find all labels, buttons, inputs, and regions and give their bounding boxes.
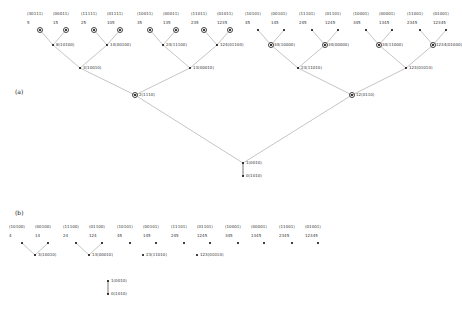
leaf-node-3 xyxy=(119,29,121,31)
leaf-node-14 xyxy=(419,29,421,31)
leaf-num-13: 1345 xyxy=(379,21,389,26)
leaf-code-6: (11011) xyxy=(191,12,207,17)
leaf-node-11 xyxy=(337,29,339,31)
level4-node-0 xyxy=(134,94,136,96)
level2-node-4 xyxy=(270,44,272,46)
leaf-node-0 xyxy=(39,29,41,31)
level2-node-6 xyxy=(378,44,380,46)
level3-node-3 xyxy=(405,67,407,69)
b-leaf-num-0: 4 xyxy=(9,234,12,239)
leaf-num-11: 1245 xyxy=(325,21,335,26)
leaf-num-3: 105 xyxy=(107,21,115,26)
b-level2-label-3: 123(01010) xyxy=(200,253,223,258)
leaf-num-10: 245 xyxy=(299,21,307,26)
leaf-code-11: (01101) xyxy=(325,12,341,17)
level3-node-2 xyxy=(297,67,299,69)
b-leaf-code-4: (10101) xyxy=(117,225,133,230)
leaf-num-5: 135 xyxy=(163,21,171,26)
leaf-num-7: 1235 xyxy=(217,21,227,26)
level3-node-1 xyxy=(189,67,191,69)
level2-node-0 xyxy=(52,44,54,46)
b-leaf-node-10 xyxy=(291,242,293,244)
b-level2-node-0 xyxy=(34,254,36,256)
b-level2-label-2: 23(11010) xyxy=(146,253,167,258)
leaf-node-10 xyxy=(311,29,313,31)
level2-node-3 xyxy=(216,44,218,46)
leaf-num-15: 12345 xyxy=(433,21,446,26)
leaf-code-0: (30111) xyxy=(27,12,43,17)
b-leaf-node-4 xyxy=(129,242,131,244)
level2-label-2: 24(11100) xyxy=(166,43,187,48)
leaf-num-1: 15 xyxy=(53,21,58,26)
b-leaf-num-4: 45 xyxy=(117,234,122,239)
leaf-node-12 xyxy=(365,29,367,31)
leaf-code-8: (10101) xyxy=(245,12,261,17)
leaf-code-3: (01111) xyxy=(107,12,123,17)
level4-label-0: 2(1110) xyxy=(139,93,155,98)
tail-label: 0(1010) xyxy=(246,174,262,179)
b-leaf-code-8: (10001) xyxy=(225,225,241,230)
b-leaf-code-10: (11001) xyxy=(279,225,295,230)
level2-node-7 xyxy=(432,44,434,46)
leaf-node-2 xyxy=(93,29,95,31)
b-tail-node xyxy=(107,293,109,295)
b-leaf-num-2: 24 xyxy=(63,234,68,239)
level2-label-5: 34(00000) xyxy=(328,43,349,48)
b-leaf-num-10: 2345 xyxy=(279,234,289,239)
b-leaf-code-0: (10100) xyxy=(9,225,25,230)
leaf-code-15: (01001) xyxy=(433,12,449,17)
b-leaf-node-8 xyxy=(237,242,239,244)
b-leaf-node-7 xyxy=(209,242,211,244)
level4-label-1: 12(0110) xyxy=(356,93,374,98)
b-leaf-num-8: 345 xyxy=(225,234,233,239)
level2-node-5 xyxy=(324,44,326,46)
leaf-code-10: (11101) xyxy=(299,12,315,17)
leaf-num-0: 5 xyxy=(27,21,30,26)
leaf-code-7: (01011) xyxy=(217,12,233,17)
level3-label-2: 23(11010) xyxy=(301,66,322,71)
level2-label-1: 14(00100) xyxy=(110,43,131,48)
level2-label-7: 1234(01000) xyxy=(436,43,462,48)
b-leaf-code-1: (00100) xyxy=(35,225,51,230)
leaf-node-6 xyxy=(203,29,205,31)
leaf-code-14: (11001) xyxy=(407,12,423,17)
level3-label-0: 3(10010) xyxy=(83,66,101,71)
leaf-code-1: (00011) xyxy=(53,12,69,17)
b-leaf-num-9: 1345 xyxy=(251,234,261,239)
leaf-num-8: 45 xyxy=(245,21,250,26)
b-level2-node-3 xyxy=(196,254,198,256)
b-leaf-node-3 xyxy=(101,242,103,244)
leaf-num-6: 235 xyxy=(191,21,199,26)
leaf-code-13: (00001) xyxy=(379,12,395,17)
b-leaf-code-7: (01101) xyxy=(197,225,213,230)
root-label: 1(0010) xyxy=(246,161,262,166)
b-leaf-code-5: (00101) xyxy=(143,225,159,230)
b-leaf-code-11: (01001) xyxy=(305,225,321,230)
b-leaf-code-6: (11101) xyxy=(171,225,187,230)
b-leaf-num-5: 145 xyxy=(143,234,151,239)
root-node xyxy=(242,162,244,164)
leaf-node-8 xyxy=(257,29,259,31)
b-level2-label-0: 3(10010) xyxy=(38,253,56,258)
b-leaf-num-1: 14 xyxy=(35,234,40,239)
leaf-num-2: 25 xyxy=(81,21,86,26)
tail-node xyxy=(242,175,244,177)
b-root-node xyxy=(107,280,109,282)
leaf-node-4 xyxy=(149,29,151,31)
leaf-num-9: 145 xyxy=(271,21,279,26)
b-leaf-node-5 xyxy=(155,242,157,244)
leaf-code-4: (10011) xyxy=(137,12,153,17)
b-level2-label-1: 13(00010) xyxy=(92,253,113,258)
leaf-num-14: 2345 xyxy=(407,21,417,26)
level2-label-0: 8(10100) xyxy=(56,43,74,48)
leaf-code-9: (00101) xyxy=(271,12,287,17)
leaf-node-1 xyxy=(65,29,67,31)
leaf-node-9 xyxy=(283,29,285,31)
b-leaf-num-11: 12345 xyxy=(305,234,318,239)
b-leaf-code-2: (11100) xyxy=(63,225,79,230)
b-leaf-node-6 xyxy=(183,242,185,244)
b-leaf-node-11 xyxy=(317,242,319,244)
leaf-code-5: (00011) xyxy=(163,12,179,17)
